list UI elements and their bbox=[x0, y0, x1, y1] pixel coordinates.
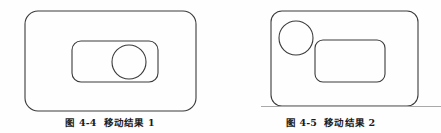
inner-rounded-rectangle bbox=[315, 40, 385, 82]
figure-4-4-caption: 图 4-4移动结果 1 bbox=[0, 117, 220, 129]
figure-4-5: 图 4-5移动结果 2 bbox=[220, 0, 441, 133]
figure-4-4-caption-title: 移动结果 1 bbox=[104, 117, 155, 128]
figure-4-5-drawing bbox=[220, 0, 441, 115]
outer-rounded-rectangle bbox=[25, 11, 196, 111]
figure-4-4-caption-number: 图 4-4 bbox=[65, 117, 96, 128]
page-scan-rule bbox=[261, 106, 441, 107]
figure-4-4-drawing bbox=[0, 0, 220, 115]
figure-4-5-caption-title: 移动结果 2 bbox=[324, 117, 375, 128]
figure-4-4: 图 4-4移动结果 1 bbox=[0, 0, 220, 133]
circle bbox=[112, 45, 146, 79]
outer-rounded-rectangle bbox=[271, 11, 418, 106]
inner-rounded-rectangle bbox=[72, 41, 158, 82]
page-canvas: 图 4-4移动结果 1 图 4-5移动结果 2 bbox=[0, 0, 441, 133]
figure-4-5-caption: 图 4-5移动结果 2 bbox=[220, 117, 441, 129]
circle bbox=[279, 21, 313, 55]
figure-4-5-caption-number: 图 4-5 bbox=[286, 117, 317, 128]
